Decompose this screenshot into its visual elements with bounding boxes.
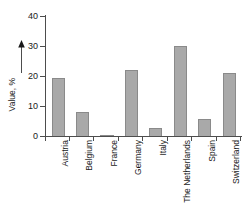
y-axis-label: Value, % [8, 78, 17, 111]
y-tick-40 [40, 16, 45, 17]
plot-area [46, 16, 241, 136]
x-label-austria: Austria [61, 140, 70, 166]
y-tick-label-20: 20 [22, 72, 38, 81]
y-tick-label-10: 10 [22, 102, 38, 111]
x-label-switzerland: Switzerland [232, 140, 241, 184]
bar-chart-figure: Value, % 0 10 20 30 40 Austria Belgium F… [0, 0, 249, 215]
x-label-spain: Spain [208, 140, 217, 162]
x-label-france: France [110, 140, 119, 166]
x-tick-0 [45, 137, 46, 141]
bar-france [100, 135, 114, 137]
bar-belgium [76, 112, 89, 136]
y-tick-20 [40, 76, 45, 77]
bar-switzerland [223, 73, 236, 136]
bar-the-netherlands [174, 46, 187, 136]
y-tick-10 [40, 106, 45, 107]
bar-austria [52, 78, 65, 136]
bar-germany [125, 70, 138, 136]
x-label-germany: Germany [134, 140, 143, 175]
y-tick-label-40: 40 [22, 12, 38, 21]
x-label-the-netherlands: The Netherlands [183, 140, 192, 203]
bar-italy [149, 128, 162, 136]
bar-spain [198, 119, 211, 136]
y-tick-label-30: 30 [22, 42, 38, 51]
y-tick-30 [40, 46, 45, 47]
x-axis-line [45, 136, 242, 137]
y-tick-label-0: 0 [22, 132, 38, 141]
x-label-belgium: Belgium [85, 140, 94, 171]
x-label-italy: Italy [159, 140, 168, 156]
